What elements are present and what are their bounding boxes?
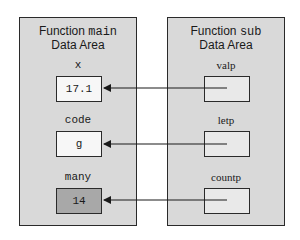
main-area-title: Function main Data Area [20, 25, 136, 52]
main-function-name: main [88, 25, 117, 39]
ptr-box-countp [204, 188, 250, 214]
var-box-many: 14 [56, 188, 102, 214]
var-label-x: x [20, 59, 136, 71]
var-box-code: g [56, 131, 102, 157]
sub-data-area: Function sub Data Area valp letp countp [167, 17, 285, 226]
sub-area-title: Function sub Data Area [168, 25, 284, 52]
main-title-prefix: Function [39, 24, 88, 38]
var-label-many: many [20, 171, 136, 183]
sub-title-suffix: Data Area [199, 38, 252, 52]
sub-title-prefix: Function [191, 24, 240, 38]
ptr-label-letp: letp [168, 114, 284, 126]
main-data-area: Function main Data Area x 17.1 code g ma… [19, 17, 137, 226]
ptr-box-valp [204, 76, 250, 102]
ptr-label-countp: countp [168, 171, 284, 183]
sub-function-name: sub [240, 25, 262, 39]
main-title-suffix: Data Area [51, 38, 104, 52]
var-box-x: 17.1 [56, 76, 102, 102]
ptr-label-valp: valp [168, 59, 284, 71]
ptr-box-letp [204, 131, 250, 157]
var-label-code: code [20, 114, 136, 126]
